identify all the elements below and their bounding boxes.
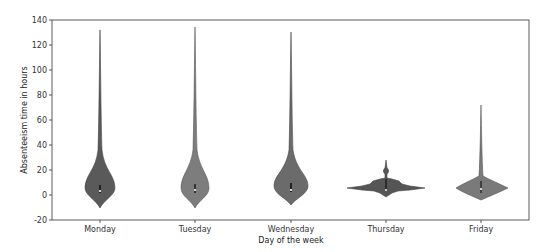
- y-tick-label: 80: [37, 91, 47, 100]
- y-tick-label: 20: [37, 166, 47, 175]
- x-axis: Monday Tuesday Wednesday Thursday Friday: [84, 220, 493, 234]
- y-tick-label: 0: [42, 191, 47, 200]
- y-tick-label: 100: [32, 66, 47, 75]
- y-tick-label: 40: [37, 141, 47, 150]
- x-tick-label: Tuesday: [178, 225, 212, 234]
- y-axis-label: Absenteeism time in hours: [20, 66, 29, 173]
- y-tick-label: -20: [34, 216, 47, 225]
- violin-wednesday: [274, 32, 308, 205]
- violin-chart: -20 0 20 40 60 80 100 120 140 Absenteeis…: [0, 0, 550, 252]
- violin-friday: [456, 105, 508, 200]
- y-tick-label: 60: [37, 116, 47, 125]
- violin-tuesday: [181, 27, 209, 208]
- x-tick-label: Friday: [469, 225, 494, 234]
- y-axis: -20 0 20 40 60 80 100 120 140: [32, 16, 52, 225]
- x-tick-label: Thursday: [366, 225, 404, 234]
- violin-thursday: [347, 160, 425, 197]
- violin-monday: [85, 30, 115, 208]
- x-tick-label: Monday: [84, 225, 116, 234]
- y-tick-label: 140: [32, 16, 47, 25]
- x-axis-label: Day of the week: [258, 236, 324, 245]
- x-tick-label: Wednesday: [268, 225, 315, 234]
- y-tick-label: 120: [32, 41, 47, 50]
